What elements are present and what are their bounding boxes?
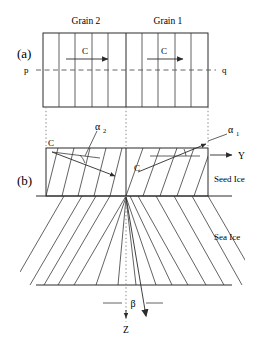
panel-a-group: (a) Grain 2 Grain 1 p q C C (17, 16, 227, 107)
alpha-1-leader-line (208, 134, 227, 141)
alpha-1-label: α (228, 124, 234, 135)
panel-a-label: (a) (17, 46, 31, 61)
q-label: q (222, 65, 227, 75)
panel-b-label: (b) (17, 173, 32, 188)
figure-container: (a) Grain 2 Grain 1 p q C C (0, 0, 261, 338)
seed-ice-label: Seed Ice (214, 174, 245, 184)
c-axis-grain-1-label: C (161, 46, 167, 56)
beta-direction-arrow (126, 197, 146, 316)
c-axis-grain-2-label: C (82, 46, 88, 56)
c-axis-left-label: C (48, 138, 54, 148)
beta-label: β (130, 298, 135, 309)
alpha-2-subscript: 2 (103, 127, 106, 134)
alpha-1-subscript: 1 (236, 130, 239, 137)
z-axis-label: Z (123, 325, 129, 335)
panel-b-group: (b) (17, 121, 252, 335)
c-axis-right-label: C (134, 163, 140, 173)
alpha-2-label: α (95, 121, 101, 132)
diagram-svg: (a) Grain 2 Grain 1 p q C C (0, 0, 261, 338)
p-label: p (24, 65, 29, 75)
grain-2-label: Grain 2 (72, 16, 101, 26)
sea-ice-label: Sea Ice (214, 232, 240, 242)
grain-1-label: Grain 1 (154, 16, 183, 26)
y-axis-label: Y (238, 151, 245, 161)
projection-lines (46, 107, 208, 146)
seed-ice-rect (46, 148, 208, 196)
alpha-2-leader-line (85, 131, 97, 156)
